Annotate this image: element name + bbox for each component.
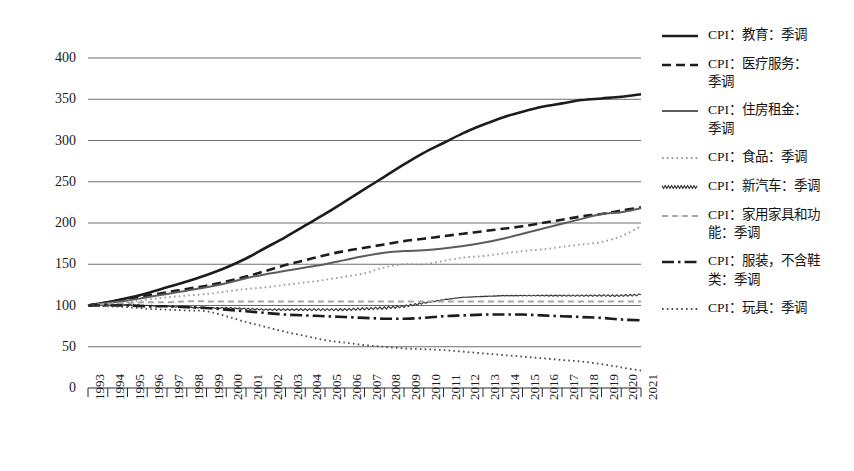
legend-item-6[interactable]: CPI：服装，不含鞋类：季调 (660, 252, 850, 288)
legend-item-5[interactable]: CPI：家用家具和功能：季调 (660, 206, 850, 242)
legend-label-line: CPI：住房租金： (708, 101, 807, 119)
x-axis-tick-label: 2002 (271, 374, 284, 400)
x-axis-tick-label: 2011 (449, 374, 462, 400)
legend-label: CPI：玩具：季调 (708, 299, 807, 317)
legend-label: CPI：服装，不含鞋类：季调 (708, 252, 820, 288)
x-axis-tick-label: 2012 (468, 374, 481, 400)
legend-label-line: CPI：新汽车：季调 (708, 177, 820, 195)
x-axis-tick-label: 2006 (350, 374, 363, 400)
y-axis-tick-label: 400 (30, 51, 76, 65)
series-line-6 (88, 305, 641, 320)
x-axis-tick-label: 2014 (508, 374, 521, 400)
legend-item-3[interactable]: CPI：食品：季调 (660, 148, 850, 167)
legend-label-line: 能：季调 (708, 224, 820, 242)
x-axis-tick-label: 2007 (370, 374, 383, 400)
legend-label-line: CPI：家用家具和功 (708, 206, 820, 224)
x-axis-tick-label: 2013 (488, 374, 501, 400)
cpi-line-chart: 400350300250200150100500 199319941995199… (0, 0, 854, 471)
legend-swatch-icon (660, 29, 700, 45)
x-axis-tick-label: 2003 (291, 374, 304, 400)
legend-label: CPI：医疗服务：季调 (708, 55, 807, 91)
legend-swatch-icon (660, 255, 700, 271)
x-axis-tick-label: 2008 (389, 374, 402, 400)
x-axis-tick-label: 1998 (192, 374, 205, 400)
y-axis-tick-label: 200 (30, 216, 76, 230)
legend-item-7[interactable]: CPI：玩具：季调 (660, 299, 850, 318)
x-axis-tick-label: 2009 (409, 374, 422, 400)
x-axis-tick-label: 2021 (646, 374, 659, 400)
legend-label-line: 季调 (708, 120, 807, 138)
y-axis-tick-label: 250 (30, 175, 76, 189)
series-line-7 (88, 306, 641, 371)
legend-swatch-icon (660, 58, 700, 74)
x-axis-tick-label: 2001 (251, 374, 264, 400)
x-axis-tick-label: 1997 (172, 374, 185, 400)
legend-item-1[interactable]: CPI：医疗服务：季调 (660, 55, 850, 91)
series-line-5 (88, 301, 641, 305)
x-axis-tick-label: 2018 (587, 374, 600, 400)
legend-swatch-icon (660, 151, 700, 167)
x-axis-tick-label: 2010 (429, 374, 442, 400)
x-axis-tick-label: 1999 (212, 374, 225, 400)
legend-swatch-icon (660, 180, 700, 196)
legend-label: CPI：食品：季调 (708, 148, 807, 166)
y-axis-tick-label: 300 (30, 134, 76, 148)
legend-label-line: CPI：医疗服务： (708, 55, 807, 73)
y-axis-tick-label: 0 (30, 381, 76, 395)
x-axis-tick-label: 2019 (607, 374, 620, 400)
legend-label: CPI：教育：季调 (708, 26, 807, 44)
x-axis-tick-label: 1993 (93, 374, 106, 400)
legend-swatch-icon (660, 104, 700, 120)
x-axis-tick-label: 2016 (547, 374, 560, 400)
x-axis-tick-label: 2015 (528, 374, 541, 400)
legend-label-line: 类：季调 (708, 271, 820, 289)
legend-item-4[interactable]: CPI：新汽车：季调 (660, 177, 850, 196)
legend-label: CPI：住房租金：季调 (708, 101, 807, 137)
y-axis-tick-label: 150 (30, 257, 76, 271)
legend-item-0[interactable]: CPI：教育：季调 (660, 26, 850, 45)
x-axis-tick-label: 1995 (133, 374, 146, 400)
y-axis-tick-label: 50 (30, 340, 76, 354)
legend-swatch-icon (660, 302, 700, 318)
legend-label-line: CPI：教育：季调 (708, 26, 807, 44)
x-axis-tick-label: 2004 (310, 374, 323, 400)
x-axis-tick-label: 1994 (113, 374, 126, 400)
legend-swatch-icon (660, 209, 700, 225)
legend-label-line: 季调 (708, 73, 807, 91)
y-axis-tick-label: 350 (30, 92, 76, 106)
chart-legend: CPI：教育：季调CPI：医疗服务：季调CPI：住房租金：季调CPI：食品：季调… (660, 26, 850, 328)
x-axis-tick-label: 1996 (152, 374, 165, 400)
legend-label-line: CPI：食品：季调 (708, 148, 807, 166)
legend-label-line: CPI：服装，不含鞋 (708, 252, 820, 270)
legend-item-2[interactable]: CPI：住房租金：季调 (660, 101, 850, 137)
x-axis-tick-label: 2020 (626, 374, 639, 400)
x-axis-tick-label: 2000 (231, 374, 244, 400)
legend-label-line: CPI：玩具：季调 (708, 299, 807, 317)
y-axis-tick-label: 100 (30, 299, 76, 313)
series-line-0 (88, 94, 641, 305)
x-axis-tick-label: 2005 (330, 374, 343, 400)
legend-label: CPI：新汽车：季调 (708, 177, 820, 195)
x-axis-tick-label: 2017 (567, 374, 580, 400)
legend-label: CPI：家用家具和功能：季调 (708, 206, 820, 242)
